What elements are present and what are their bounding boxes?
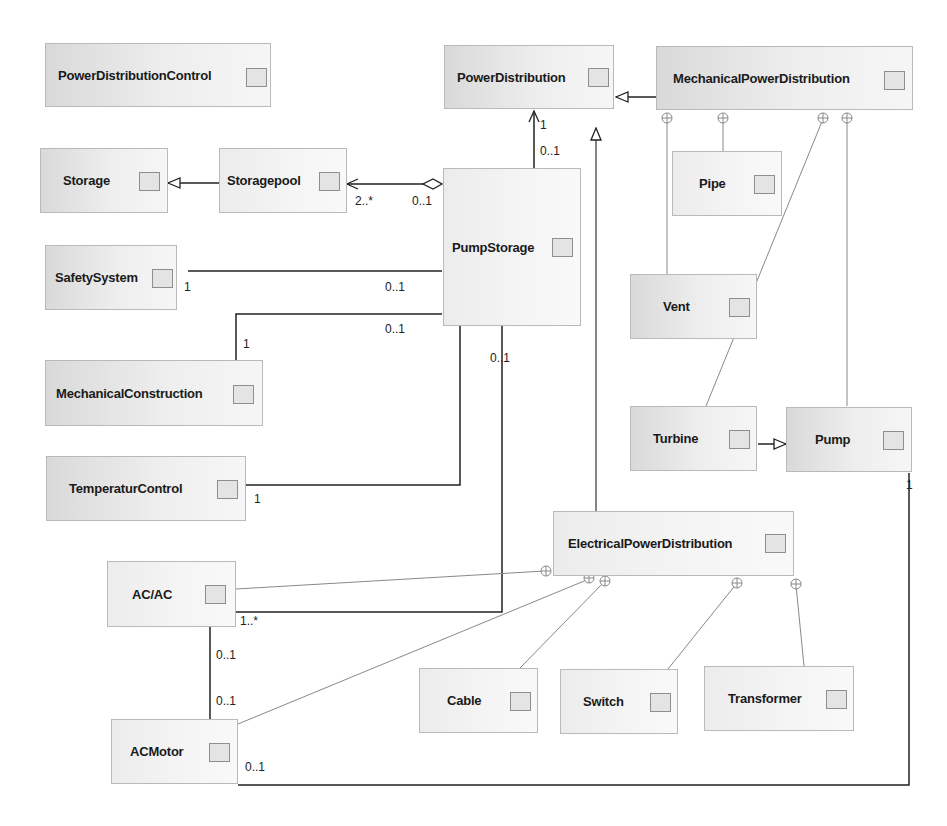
mult-tc-left: 1	[254, 492, 261, 506]
assoc-ps-acac	[236, 326, 502, 612]
class-pump[interactable]: Pump	[786, 407, 912, 472]
class-icon	[139, 172, 160, 191]
mult-acmotor-up: 0..1	[216, 694, 236, 708]
class-transformer[interactable]: Transformer	[704, 666, 854, 731]
class-name: Transformer	[728, 691, 802, 706]
class-name: MechanicalPowerDistribution	[673, 71, 850, 86]
contain-epd-acac	[236, 571, 545, 589]
class-turbine[interactable]: Turbine	[630, 406, 757, 471]
class-icon	[884, 71, 905, 90]
class-icon	[765, 534, 786, 553]
class-name: Turbine	[653, 431, 698, 446]
class-name: PumpStorage	[452, 240, 534, 255]
mult-acmotor-right: 0..1	[245, 760, 265, 774]
class-icon	[883, 431, 904, 450]
class-icon	[205, 585, 226, 604]
class-name: SafetySystem	[55, 270, 138, 285]
class-powerdistributioncontrol[interactable]: PowerDistributionControl	[45, 43, 271, 107]
class-icon	[217, 480, 238, 499]
class-icon	[826, 690, 847, 709]
class-icon	[754, 175, 775, 194]
class-cable[interactable]: Cable	[419, 668, 538, 733]
class-storagepool[interactable]: Storagepool	[219, 148, 347, 213]
mult-acac-down: 0..1	[216, 648, 236, 662]
class-icon	[552, 238, 573, 257]
class-icon	[209, 743, 230, 762]
class-name: Switch	[583, 694, 624, 709]
class-name: PowerDistribution	[457, 70, 566, 85]
class-acac[interactable]: AC/AC	[107, 561, 236, 627]
class-mechanicalconstruction[interactable]: MechanicalConstruction	[45, 360, 263, 426]
class-acmotor[interactable]: ACMotor	[111, 719, 238, 784]
class-icon	[152, 269, 173, 288]
class-temperaturcontrol[interactable]: TemperaturControl	[46, 456, 246, 521]
mult-mc-right: 0..1	[385, 322, 405, 336]
class-storage[interactable]: Storage	[40, 148, 168, 213]
uml-class-diagram: PowerDistributionControl PowerDistributi…	[0, 0, 947, 826]
class-electricalpowerdistribution[interactable]: ElectricalPowerDistribution	[553, 511, 794, 576]
mult-ps-down: 0..1	[490, 351, 510, 365]
class-icon	[588, 68, 609, 87]
class-icon	[233, 385, 254, 404]
class-name: TemperaturControl	[69, 481, 182, 496]
mult-ps-pd-bottom: 0..1	[540, 144, 560, 158]
class-safetysystem[interactable]: SafetySystem	[45, 245, 177, 310]
class-icon	[246, 68, 267, 87]
class-name: ACMotor	[130, 744, 183, 759]
class-icon	[510, 692, 531, 711]
mult-sp-right: 0..1	[412, 194, 432, 208]
mult-sp-left: 2..*	[355, 194, 373, 208]
contain-epd-switch	[668, 583, 737, 669]
class-pipe[interactable]: Pipe	[672, 151, 782, 216]
class-name: Storage	[63, 173, 110, 188]
class-switch[interactable]: Switch	[560, 669, 678, 734]
mult-ps-pd-top: 1	[540, 118, 547, 132]
class-name: Cable	[447, 693, 481, 708]
class-name: ElectricalPowerDistribution	[568, 536, 732, 551]
class-icon	[319, 172, 340, 191]
class-icon	[729, 298, 750, 317]
class-icon	[729, 430, 750, 449]
mult-mc-left: 1	[243, 337, 250, 351]
mult-ss-left: 1	[184, 280, 191, 294]
contain-epd-cable	[520, 581, 605, 668]
class-powerdistribution[interactable]: PowerDistribution	[444, 45, 614, 109]
class-vent[interactable]: Vent	[630, 274, 757, 339]
mult-ss-right: 0..1	[385, 280, 405, 294]
mult-acac-right: 1..*	[240, 614, 258, 628]
class-name: PowerDistributionControl	[58, 68, 211, 83]
class-name: Pump	[815, 432, 850, 447]
contain-epd-transformer	[796, 585, 804, 666]
class-name: AC/AC	[132, 587, 172, 602]
class-name: MechanicalConstruction	[56, 386, 203, 401]
assoc-ps-tc	[245, 326, 460, 485]
assoc-ps-mc	[236, 314, 442, 361]
class-mechanicalpowerdistribution[interactable]: MechanicalPowerDistribution	[656, 46, 913, 110]
class-name: Vent	[663, 299, 690, 314]
class-name: Storagepool	[227, 173, 301, 188]
class-icon	[650, 693, 671, 712]
class-name: Pipe	[699, 176, 726, 191]
mult-pump-down: 1	[906, 478, 913, 492]
class-pumpstorage[interactable]: PumpStorage	[443, 168, 581, 326]
